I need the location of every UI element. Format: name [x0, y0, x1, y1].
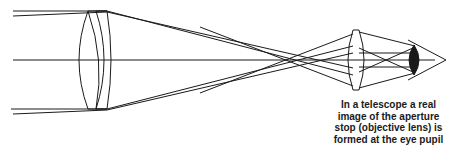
- exit-ray-1: [359, 32, 415, 46]
- incoming-ray-top-2: [13, 12, 107, 16]
- ray-center-b: [200, 27, 353, 86]
- caption-line-1: In a telescope a real: [320, 99, 457, 111]
- caption: In a telescope a real image of the apert…: [320, 99, 457, 145]
- ray-bottom-a: [107, 46, 353, 109]
- exit-ray-2: [359, 73, 415, 88]
- caption-line-3: stop (objective lens) is: [320, 122, 457, 134]
- ray-center-a: [200, 34, 353, 93]
- incoming-ray-bottom-2: [13, 110, 107, 114]
- caption-line-2: image of the aperture: [320, 111, 457, 123]
- caption-line-4: formed at the eye pupil: [320, 134, 457, 146]
